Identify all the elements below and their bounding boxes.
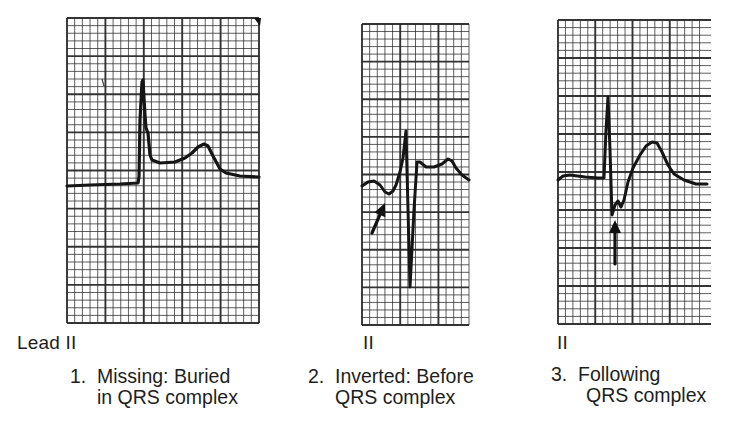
ecg-strip-3-svg: [0, 0, 730, 422]
caption-line-2: QRS complex: [335, 386, 455, 408]
caption-strip-2: 2.Inverted: Before QRS complex: [308, 366, 474, 408]
caption-line-2: in QRS complex: [97, 386, 238, 408]
p-wave-arrow-icon: [609, 220, 621, 264]
caption-line-1: Missing: Buried: [97, 365, 230, 387]
lead-label-strip-3: II: [557, 333, 568, 353]
lead-label-strip-1: Lead II: [17, 333, 77, 353]
caption-number: 3.: [551, 364, 578, 385]
caption-strip-1: 1.Missing: Buried in QRS complex: [70, 366, 238, 408]
caption-number: 2.: [308, 366, 335, 387]
caption-strip-3: 3.Following QRS complex: [551, 364, 706, 406]
ecg-strip-3: [0, 0, 730, 422]
caption-line-2: QRS complex: [586, 384, 706, 406]
caption-number: 1.: [70, 366, 97, 387]
ecg-grid: [558, 20, 711, 324]
caption-line-1: Following: [578, 363, 660, 385]
caption-line-1: Inverted: Before: [335, 365, 474, 387]
lead-label-strip-2: II: [363, 333, 374, 353]
